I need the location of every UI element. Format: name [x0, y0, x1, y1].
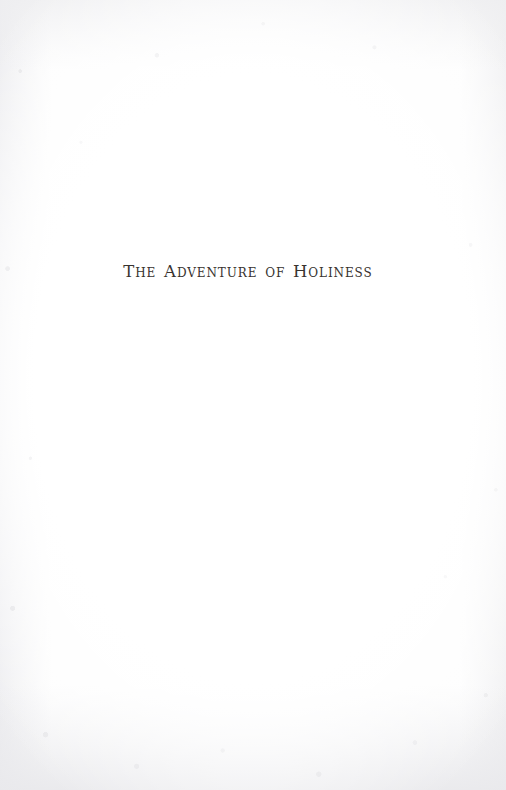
- part-title: The Adventure of Holiness: [123, 262, 372, 283]
- book-page: The Adventure of Holiness: [0, 0, 506, 790]
- title-block: The Adventure of Holiness: [0, 262, 506, 283]
- paper-background: [0, 0, 506, 790]
